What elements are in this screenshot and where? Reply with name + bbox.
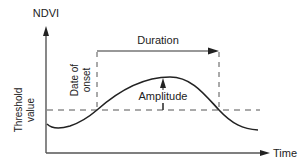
onset-label: Date of onset	[69, 64, 92, 96]
x-axis-label: Time	[273, 147, 297, 159]
x-axis-arrow-icon	[260, 150, 270, 156]
y-axis-label: NDVI	[33, 7, 59, 19]
duration-arrow	[97, 48, 219, 55]
duration-label: Duration	[137, 34, 179, 46]
threshold-label-line1: Threshold	[13, 88, 24, 132]
threshold-label: Threshold value	[13, 88, 36, 132]
y-axis	[43, 26, 49, 153]
threshold-label-line2: value	[25, 98, 36, 122]
amplitude-label: Amplitude	[139, 90, 188, 102]
x-axis	[46, 150, 270, 156]
amplitude-arrow-icon	[160, 78, 166, 88]
y-axis-arrow-icon	[43, 26, 49, 36]
ndvi-phenology-diagram: NDVI Time Threshold value Date of onset …	[0, 0, 302, 166]
duration-arrow-icon	[208, 48, 219, 55]
onset-label-line1: Date of	[69, 64, 80, 96]
onset-label-line2: onset	[81, 68, 92, 93]
